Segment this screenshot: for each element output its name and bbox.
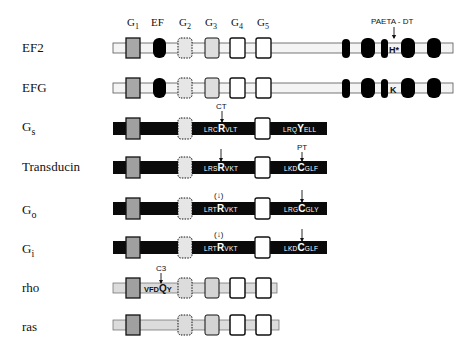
row-go: LRTRVKT LRGCGLY (↓) bbox=[113, 190, 327, 219]
domain-blob bbox=[427, 78, 441, 98]
arrow-down-icon bbox=[300, 190, 304, 203]
column-headers: G1 EF G2 G3 G4 G5 bbox=[127, 16, 269, 31]
row-label-go: Go bbox=[22, 202, 36, 220]
g1-box bbox=[126, 157, 140, 178]
ef-blob bbox=[153, 38, 166, 58]
g3-box bbox=[205, 315, 219, 335]
g4-box bbox=[230, 315, 245, 335]
arrow-down-icon bbox=[300, 229, 304, 242]
g1-box bbox=[126, 78, 140, 98]
domain-blob bbox=[342, 39, 350, 58]
domain-blob bbox=[381, 39, 388, 58]
g2-box bbox=[178, 38, 192, 58]
domain-blob bbox=[401, 78, 415, 98]
g1-box bbox=[126, 278, 140, 298]
g1-box bbox=[126, 315, 140, 335]
g3-box bbox=[205, 278, 219, 298]
row-label-transducin: Transducin bbox=[22, 159, 81, 174]
annotation-paren-arrow: (↓) bbox=[214, 230, 224, 239]
g4-box bbox=[230, 78, 245, 98]
row-ras bbox=[113, 315, 279, 335]
g1-box bbox=[126, 237, 140, 258]
g2-box bbox=[178, 78, 192, 98]
arrow-down-icon bbox=[300, 152, 304, 162]
domain-blob bbox=[361, 78, 375, 98]
row-rho: VFDQY C3 bbox=[113, 264, 277, 298]
row-efg: K bbox=[113, 78, 453, 98]
annotation-paren-arrow: (↓) bbox=[214, 191, 224, 200]
row-gi: LRTRVKT LKDCGLF (↓) bbox=[113, 229, 327, 258]
header-g3: G3 bbox=[205, 16, 217, 31]
g2-box bbox=[178, 278, 192, 298]
g2-box bbox=[178, 198, 192, 219]
annotation-ct: CT bbox=[216, 102, 227, 111]
annotation-c3: C3 bbox=[156, 264, 167, 273]
header-g1: G1 bbox=[127, 16, 139, 31]
residue-h-star: H* bbox=[389, 45, 399, 55]
row-label-gi: Gi bbox=[22, 241, 34, 259]
g3-box bbox=[205, 38, 219, 58]
g4-box bbox=[230, 38, 245, 58]
arrow-down-icon bbox=[220, 111, 224, 123]
row-label-efg: EFG bbox=[22, 80, 47, 95]
g5-box bbox=[255, 118, 270, 139]
g5-box bbox=[255, 157, 270, 178]
g5-box bbox=[256, 315, 271, 335]
row-label-ras: ras bbox=[22, 319, 37, 334]
gtp-binding-protein-domain-diagram: G1 EF G2 G3 G4 G5 EF2 EFG Gs Transducin … bbox=[0, 0, 470, 354]
domain-blob bbox=[427, 38, 441, 58]
domain-blob bbox=[381, 79, 388, 98]
annotation-pt: PT bbox=[297, 143, 307, 152]
row-transducin: LRSRVKT LKDCGLF PT bbox=[113, 143, 327, 178]
domain-blob bbox=[361, 38, 375, 58]
residue-k: K bbox=[390, 85, 397, 95]
arrow-down-icon bbox=[219, 149, 223, 162]
g5-box bbox=[255, 237, 270, 258]
domain-blob bbox=[401, 38, 415, 58]
row-gs: LRCRVLT LRQYELL CT bbox=[113, 102, 327, 139]
g1-box bbox=[126, 118, 140, 139]
row-ef2: H* PAETA - DT bbox=[113, 17, 453, 58]
annotation-paeta-dt: PAETA - DT bbox=[371, 17, 413, 26]
g5-box bbox=[256, 38, 271, 58]
header-ef: EF bbox=[151, 16, 164, 28]
g5-box bbox=[255, 198, 270, 219]
g2-box bbox=[178, 157, 192, 178]
row-label-gs: Gs bbox=[22, 119, 35, 137]
sequence-effector-region: VFDQY bbox=[144, 283, 172, 294]
domain-blob bbox=[342, 79, 350, 98]
g1-box bbox=[126, 38, 140, 58]
row-labels: EF2 EFG Gs Transducin Go Gi rho ras bbox=[22, 40, 81, 334]
ef-blob bbox=[153, 78, 166, 98]
g1-box bbox=[126, 198, 140, 219]
arrow-down-icon bbox=[392, 27, 396, 39]
g3-box bbox=[205, 78, 219, 98]
row-label-rho: rho bbox=[22, 280, 39, 295]
row-label-ef2: EF2 bbox=[22, 40, 44, 55]
g5-box bbox=[256, 278, 271, 298]
g2-box bbox=[178, 118, 192, 139]
g5-box bbox=[256, 78, 271, 98]
header-g4: G4 bbox=[231, 16, 243, 31]
g2-box bbox=[178, 315, 192, 335]
g2-box bbox=[178, 237, 192, 258]
header-g5: G5 bbox=[257, 16, 269, 31]
header-g2: G2 bbox=[179, 16, 191, 31]
g4-box bbox=[230, 278, 245, 298]
